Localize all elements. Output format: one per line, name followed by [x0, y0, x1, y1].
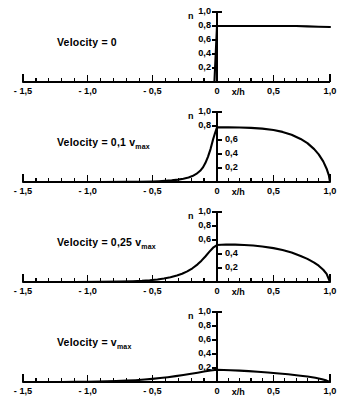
y-tick-label: 0,6	[225, 134, 238, 144]
velocity-annotation-subscript: max	[135, 143, 150, 150]
y-tick-label: 0,8	[187, 20, 211, 30]
y-tick-label: 0,2	[225, 162, 238, 172]
density-curve	[23, 245, 330, 282]
velocity-annotation-value: 0	[111, 36, 117, 48]
x-tick-label: 1,0	[310, 86, 346, 96]
x-tick-label: - 0,5	[132, 86, 172, 96]
x-tick-label: - 0,5	[132, 386, 172, 396]
velocity-annotation-value: 0,25 v	[111, 236, 141, 248]
x-axis-label: x/h	[232, 187, 245, 197]
y-tick-label: 0,4	[187, 348, 211, 358]
y-tick-label: 0,2	[225, 262, 238, 272]
x-tick-label: - 1,0	[68, 286, 108, 296]
x-tick-label: - 1,0	[68, 386, 108, 396]
velocity-annotation-prefix: Velocity =	[57, 336, 111, 348]
x-tick-label: - 0,5	[132, 186, 172, 196]
x-tick-label: - 1,5	[3, 386, 43, 396]
figure-density-profiles: n0,20,40,60,81,0- 1,5- 1,0- 0,500,51,0x/…	[0, 0, 346, 409]
velocity-annotation-subscript: max	[141, 243, 156, 250]
y-tick-label: 0,8	[187, 220, 211, 230]
velocity-annotation: Velocity = 0	[57, 36, 117, 48]
x-tick-label: - 1,0	[68, 186, 108, 196]
x-tick-label: 1,0	[310, 186, 346, 196]
density-curve	[23, 370, 330, 382]
velocity-annotation-prefix: Velocity =	[57, 236, 111, 248]
y-tick-label: 0,6	[187, 334, 211, 344]
y-tick-label: 0,2	[187, 62, 211, 72]
plot-area	[0, 300, 346, 400]
y-tick-label: 0,4	[225, 248, 238, 258]
panel-velocity-0-1: n0,20,40,60,81,0- 1,5- 1,0- 0,500,51,0x/…	[0, 100, 346, 200]
y-tick-label: 0,6	[187, 34, 211, 44]
x-tick-label: 0,5	[254, 86, 294, 96]
x-axis-label: x/h	[232, 87, 245, 97]
velocity-annotation: Velocity = 0,25 vmax	[57, 236, 156, 250]
velocity-annotation: Velocity = vmax	[57, 336, 132, 350]
x-tick-label: 0,5	[254, 286, 294, 296]
x-tick-label: 0,5	[254, 186, 294, 196]
density-curve	[23, 26, 330, 82]
plot-area	[0, 200, 346, 300]
velocity-annotation: Velocity = 0,1 vmax	[57, 136, 150, 150]
plot-area	[0, 100, 346, 200]
y-tick-label: 1,0	[187, 6, 211, 16]
y-tick-label: 1,0	[187, 306, 211, 316]
velocity-annotation-prefix: Velocity =	[57, 36, 111, 48]
panel-velocity-vmax: n0,20,40,60,81,0- 1,5- 1,0- 0,500,51,0x/…	[0, 300, 346, 400]
x-tick-label: 1,0	[310, 286, 346, 296]
y-tick-label: 0,2	[187, 362, 211, 372]
panel-velocity-0-25: n0,20,40,60,81,0- 1,5- 1,0- 0,500,51,0x/…	[0, 200, 346, 300]
velocity-annotation-subscript: max	[117, 343, 132, 350]
velocity-annotation-prefix: Velocity =	[57, 136, 111, 148]
panel-velocity-0: n0,20,40,60,81,0- 1,5- 1,0- 0,500,51,0x/…	[0, 0, 346, 100]
x-axis-label: x/h	[232, 387, 245, 397]
x-tick-label: - 1,5	[3, 286, 43, 296]
x-tick-label: 0,5	[254, 386, 294, 396]
plot-area	[0, 0, 346, 100]
y-tick-label: 0,6	[187, 234, 211, 244]
y-tick-label: 1,0	[187, 206, 211, 216]
x-tick-label: - 1,5	[3, 86, 43, 96]
y-tick-label: 0,4	[225, 148, 238, 158]
y-tick-label: 0,4	[187, 48, 211, 58]
y-tick-label: 0,8	[187, 320, 211, 330]
x-tick-label: - 1,0	[68, 86, 108, 96]
x-tick-label: - 0,5	[132, 286, 172, 296]
x-tick-label: 1,0	[310, 386, 346, 396]
velocity-annotation-value: 0,1 v	[111, 136, 135, 148]
y-tick-label: 0,8	[187, 120, 211, 130]
x-tick-label: - 1,5	[3, 186, 43, 196]
y-tick-label: 1,0	[187, 106, 211, 116]
x-axis-label: x/h	[232, 287, 245, 297]
